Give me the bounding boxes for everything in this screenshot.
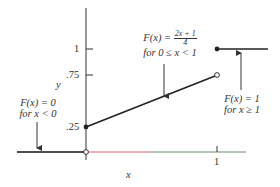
open-point-origin: [84, 150, 89, 155]
open-point-075: [215, 73, 220, 78]
annotation-left: F(x) = 0 for x < 0: [14, 97, 62, 119]
y-tick-label-075: .75: [66, 69, 79, 80]
annotation-right: F(x) = 1 for x ≥ 1: [218, 93, 266, 115]
annotation-middle: F(x) = 2x + 14 for 0 ≤ x < 1: [130, 30, 210, 58]
y-tick-label-025: .25: [66, 121, 79, 132]
y-tick-label-1: 1: [74, 43, 79, 54]
annotation-left-line1: F(x) = 0: [14, 97, 62, 108]
segment-linear: [86, 76, 215, 127]
annotation-middle-lhs: F(x) =: [143, 32, 173, 43]
x-tick-label-1: 1: [214, 156, 219, 167]
annotation-right-line2: for x ≥ 1: [218, 104, 266, 115]
annotation-right-line1: F(x) = 1: [218, 93, 266, 104]
annotation-middle-line1: F(x) = 2x + 14: [130, 30, 210, 47]
x-axis-label: x: [126, 169, 131, 180]
fraction: 2x + 14: [174, 30, 197, 47]
closed-point-025: [84, 125, 89, 130]
closed-point-1: [215, 47, 220, 52]
annotation-middle-line2: for 0 ≤ x < 1: [130, 47, 210, 58]
y-axis-label: y: [56, 79, 61, 90]
fraction-denominator: 4: [174, 39, 197, 47]
annotation-left-line2: for x < 0: [14, 108, 62, 119]
